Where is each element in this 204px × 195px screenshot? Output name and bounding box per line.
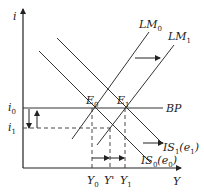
i0-label: i0 — [8, 101, 16, 116]
e1-label: E1 — [116, 94, 130, 109]
is1-curve — [57, 38, 162, 143]
y0-label: Y0 — [87, 174, 99, 189]
lm1-curve — [97, 45, 174, 145]
yprime-label: Y' — [104, 174, 114, 187]
y-axis-label: i — [13, 10, 17, 23]
i1-label: i1 — [8, 121, 16, 136]
lm1-label: LM1 — [167, 30, 191, 45]
bp-label: BP — [165, 102, 182, 115]
lm0-label: LM0 — [138, 18, 162, 33]
e0-label: E0 — [85, 94, 99, 109]
is-lm-bp-diagram: i Y LM0 LM1 BP IS1(e1) IS0(e0) E0 E1 i0 … — [0, 0, 204, 195]
is0-label: IS0(e0) — [140, 154, 177, 169]
x-axis-label: Y — [173, 175, 182, 188]
y1-label: Y1 — [120, 174, 132, 189]
